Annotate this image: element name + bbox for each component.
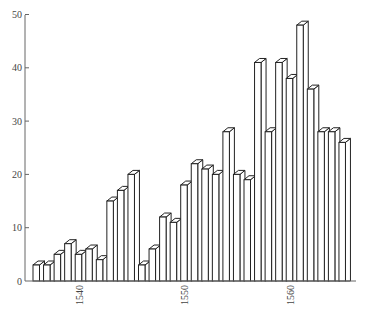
y-tick-label: 10 (12, 222, 22, 233)
x-tick-label: 1550 (179, 285, 190, 305)
bar-1536 (33, 261, 45, 281)
bar-1563 (318, 128, 330, 281)
x-axis-ticks: 154015501560 (74, 285, 296, 305)
bar-1551 (191, 160, 203, 281)
bar-1557 (255, 58, 266, 281)
bar-1544 (117, 186, 128, 281)
bar-1555 (233, 170, 245, 281)
y-tick-label: 50 (12, 9, 22, 20)
bar-1558 (265, 128, 277, 281)
bar-1539 (65, 240, 77, 281)
bar-1561 (297, 21, 309, 281)
bar-1538 (54, 250, 66, 281)
bars-group (33, 21, 350, 281)
bar-1542 (96, 256, 108, 281)
y-tick-label: 20 (12, 169, 22, 180)
bar-1546 (139, 261, 151, 281)
y-tick-label: 30 (12, 116, 22, 127)
bar-1560 (286, 74, 298, 281)
bar-1543 (107, 197, 119, 281)
x-tick-label: 1540 (74, 285, 85, 305)
bar-chart: 01020304050 154015501560 (0, 0, 372, 311)
bar-1553 (212, 170, 224, 281)
bar-1554 (223, 128, 235, 281)
bar-1549 (170, 218, 182, 281)
bar-1564 (328, 128, 340, 281)
bar-1556 (244, 176, 256, 281)
bar-1545 (128, 170, 140, 281)
x-tick-label: 1560 (285, 285, 296, 305)
bar-1552 (202, 165, 214, 281)
bar-1537 (44, 261, 56, 281)
y-tick-label: 40 (12, 62, 22, 73)
bar-1565 (339, 138, 351, 281)
y-axis-ticks: 01020304050 (12, 9, 29, 287)
bar-1562 (307, 85, 319, 281)
bar-1559 (276, 58, 288, 281)
bar-1548 (160, 213, 172, 281)
y-tick-label: 0 (17, 276, 22, 287)
bar-1541 (86, 245, 98, 281)
bar-1547 (149, 245, 161, 281)
bar-1550 (181, 181, 193, 281)
bar-1540 (75, 250, 87, 281)
